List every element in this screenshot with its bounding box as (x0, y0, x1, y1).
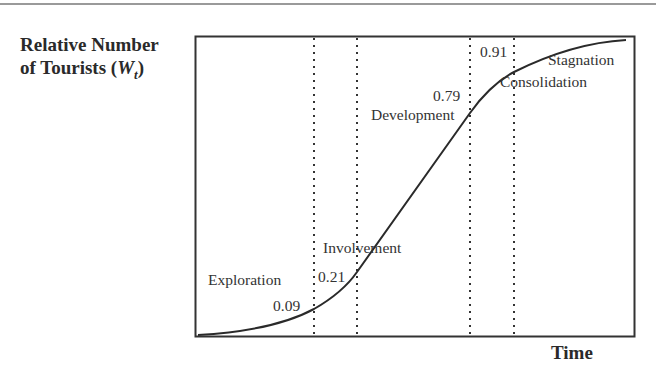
value-label-0.79: 0.79 (433, 87, 460, 104)
x-axis-label: Time (551, 342, 593, 364)
value-label-0.21: 0.21 (318, 268, 345, 285)
stage-label-exploration: Exploration (208, 271, 281, 288)
chart-plot: Exploration Involvement Development Cons… (0, 0, 656, 370)
value-label-0.91: 0.91 (480, 43, 507, 60)
stage-label-stagnation: Stagnation (548, 51, 615, 68)
value-label-0.09: 0.09 (273, 297, 300, 314)
stage-boundaries (314, 38, 514, 336)
stage-label-development: Development (371, 106, 455, 123)
stage-label-consolidation: Consolidation (500, 73, 587, 90)
stage-label-involvement: Involvement (323, 239, 402, 256)
